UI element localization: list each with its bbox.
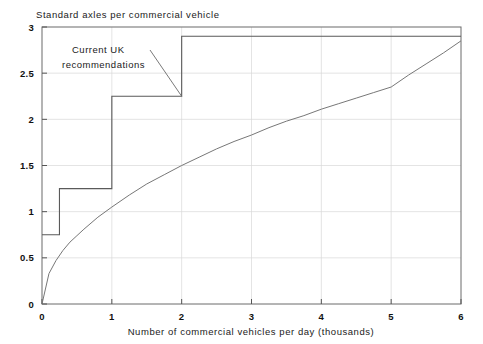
y-tick-label: 1.5 bbox=[20, 160, 35, 171]
x-tick-label: 3 bbox=[249, 311, 255, 322]
y-tick-label: 3 bbox=[28, 22, 34, 33]
x-tick-label: 6 bbox=[458, 311, 464, 322]
x-tick-label: 0 bbox=[39, 311, 45, 322]
x-axis-title: Number of commercial vehicles per day (t… bbox=[128, 326, 375, 337]
x-tick-label: 1 bbox=[109, 311, 115, 322]
y-tick-label: 0 bbox=[28, 299, 34, 310]
y-tick-label: 2.5 bbox=[20, 68, 35, 79]
chart-canvas: 0123456 00.511.522.53 Current UK recomme… bbox=[0, 0, 483, 344]
chart-title: Standard axles per commercial vehicle bbox=[36, 9, 220, 20]
x-tick-label: 5 bbox=[388, 311, 394, 322]
y-tick-label: 0.5 bbox=[20, 252, 35, 263]
chart-figure: 0123456 00.511.522.53 Current UK recomme… bbox=[0, 0, 483, 344]
y-axis-tick-labels: 00.511.522.53 bbox=[20, 22, 35, 310]
x-tick-label: 4 bbox=[319, 311, 325, 322]
y-tick-label: 2 bbox=[28, 114, 34, 125]
x-axis-tick-labels: 0123456 bbox=[39, 311, 464, 322]
x-tick-label: 2 bbox=[179, 311, 185, 322]
y-tick-label: 1 bbox=[28, 206, 34, 217]
annotation-line-2: recommendations bbox=[62, 59, 145, 70]
annotation-line-1: Current UK bbox=[72, 44, 125, 55]
